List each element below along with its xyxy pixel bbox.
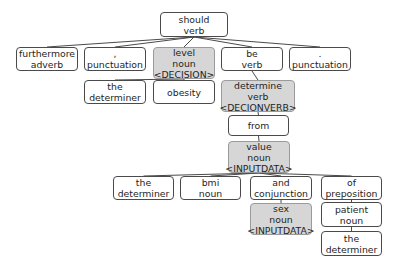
- tree-node-determine: determineverb<DECIONVERB>: [221, 80, 295, 112]
- node-label-line: verb: [248, 91, 269, 102]
- tree-node-level: levelnoun<DECISION>: [153, 47, 215, 79]
- node-label-line: bmi: [202, 177, 220, 188]
- tree-node-obesity: obesity: [153, 80, 215, 104]
- tree-node-furthermore: furthermoreadverb: [16, 47, 78, 71]
- node-label-line: <DECISION>: [154, 69, 215, 80]
- node-label-line: level: [173, 47, 195, 58]
- node-label-line: the: [107, 81, 122, 92]
- tree-node-sex: sexnoun<INPUTDATA>: [250, 203, 312, 235]
- node-label-line: noun: [340, 215, 363, 226]
- tree-edge: [194, 37, 320, 47]
- node-label-line: should: [179, 14, 210, 25]
- tree-node-the2: thedeterminer: [113, 176, 174, 200]
- tree-node-bmi: bminoun: [180, 176, 241, 200]
- node-label-line: determine: [234, 80, 282, 91]
- node-label-line: noun: [247, 152, 270, 163]
- node-label-line: from: [248, 120, 270, 131]
- tree-node-from: from: [228, 115, 289, 136]
- node-label-line: punctuation: [87, 59, 143, 70]
- node-label-line: noun: [269, 214, 292, 225]
- node-label-line: verb: [184, 25, 205, 36]
- node-label-line: noun: [172, 58, 195, 69]
- node-label-line: ,: [114, 48, 117, 59]
- node-label-line: .: [319, 48, 322, 59]
- node-label-line: <INPUTDATA>: [225, 163, 292, 174]
- node-label-line: punctuation: [292, 59, 348, 70]
- tree-edge: [47, 37, 194, 47]
- node-label-line: furthermore: [19, 48, 75, 59]
- tree-node-and: andconjunction: [250, 176, 312, 200]
- node-label-line: the: [344, 233, 359, 244]
- node-label-line: preposition: [325, 188, 377, 199]
- tree-node-of: ofpreposition: [321, 176, 382, 200]
- node-label-line: determiner: [326, 244, 378, 255]
- tree-node-the1: thedeterminer: [84, 80, 146, 104]
- tree-node-the3: thedeterminer: [321, 231, 382, 256]
- node-label-line: <DECIONVERB>: [219, 102, 296, 113]
- node-label-line: adverb: [31, 59, 64, 70]
- parse-tree-diagram: shouldverbfurthermoreadverb,punctuationl…: [0, 0, 397, 269]
- tree-node-comma: ,punctuation: [84, 47, 146, 71]
- tree-node-should: shouldverb: [160, 12, 228, 37]
- node-label-line: of: [347, 177, 356, 188]
- node-label-line: be: [246, 48, 258, 59]
- tree-edges: [0, 0, 397, 269]
- node-label-line: noun: [199, 188, 222, 199]
- tree-node-patient: patientnoun: [321, 202, 382, 227]
- tree-node-be: beverb: [221, 47, 283, 71]
- node-label-line: obesity: [167, 87, 201, 98]
- node-label-line: sex: [273, 203, 289, 214]
- tree-node-value: valuenoun<INPUTDATA>: [228, 141, 290, 173]
- node-label-line: determiner: [89, 92, 141, 103]
- node-label-line: the: [136, 177, 151, 188]
- node-label-line: and: [272, 177, 290, 188]
- node-label-line: patient: [335, 204, 368, 215]
- node-label-line: determiner: [118, 188, 170, 199]
- node-label-line: verb: [242, 59, 263, 70]
- node-label-line: value: [246, 141, 271, 152]
- node-label-line: conjunction: [254, 188, 308, 199]
- tree-edge: [194, 37, 252, 47]
- tree-node-period: .punctuation: [289, 47, 351, 71]
- node-label-line: <INPUTDATA>: [247, 225, 314, 236]
